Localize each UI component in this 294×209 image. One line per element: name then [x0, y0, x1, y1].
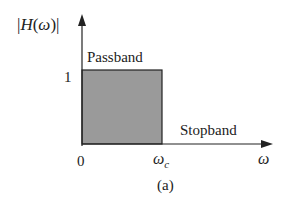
x-tick-zero: 0 [77, 153, 85, 169]
passband-label: Passband [87, 49, 143, 65]
y-tick-one: 1 [64, 69, 72, 85]
y-axis-label: |H(ω)| [17, 15, 59, 34]
stopband-label: Stopband [180, 122, 237, 138]
ideal-lowpass-filter-diagram: |H(ω)| Passband 1 Stopband 0 ωc ω (a) [0, 0, 294, 209]
passband-region [82, 70, 162, 144]
x-axis-label: ω [258, 150, 269, 167]
x-axis-arrow-icon [261, 140, 273, 148]
y-axis-arrow-icon [78, 14, 86, 26]
figure-caption: (a) [157, 177, 174, 194]
x-tick-cutoff: ωc [153, 150, 169, 170]
